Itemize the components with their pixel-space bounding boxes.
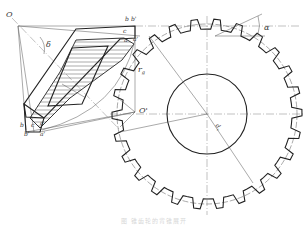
hatched-section <box>30 38 134 128</box>
alpha-arc <box>258 16 260 34</box>
label-rg: rg <box>138 65 145 76</box>
alpha-line <box>215 14 262 36</box>
delta-arc <box>40 37 45 54</box>
radial-line-left <box>120 114 207 132</box>
label-b-prime-low: b' <box>24 130 30 137</box>
label-alpha: α <box>264 23 270 32</box>
label-a-low: a <box>40 119 44 126</box>
back-cone-line-2 <box>40 112 135 132</box>
bevel-gear-diagram: O b b' c a a' δ rg O' b c a b' a' α dv <box>0 0 308 226</box>
label-b-low: b <box>20 121 24 128</box>
label-c: c <box>123 27 127 34</box>
label-b-prime: b' <box>131 15 137 22</box>
label-b: b <box>125 15 129 22</box>
label-O-prime: O' <box>139 106 148 115</box>
label-delta: δ <box>46 40 51 49</box>
label-a-prime: a' <box>133 35 139 42</box>
rg-sub: g <box>142 69 145 76</box>
label-a-prime-low: a' <box>40 130 46 137</box>
label-O: O <box>6 10 13 19</box>
bevel-gear-section <box>12 18 305 132</box>
figure-caption: 图 锥齿轮的背锥展开 <box>0 216 308 225</box>
cone-line <box>18 26 140 36</box>
label-a: a <box>124 36 128 43</box>
